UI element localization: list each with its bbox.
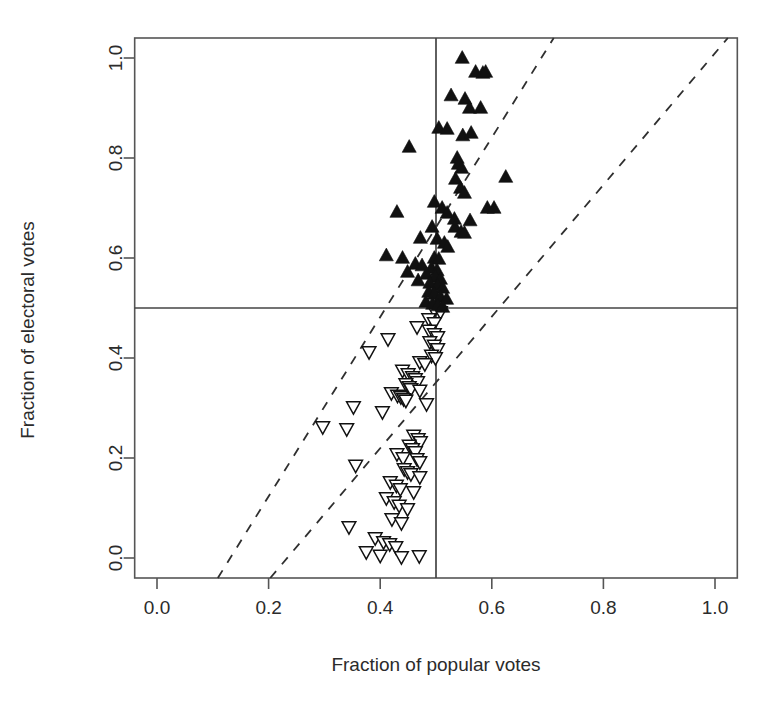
data-points-losers — [316, 305, 447, 564]
data-point-winner — [464, 126, 478, 139]
data-point-loser — [395, 552, 409, 564]
data-point-loser — [420, 399, 434, 411]
scatter-plot-figure: 0.00.20.40.60.81.00.00.20.40.60.81.0 Fra… — [0, 0, 779, 709]
x-tick-label: 0.4 — [367, 597, 394, 618]
data-point-loser — [395, 518, 409, 530]
y-tick-label: 0.8 — [105, 145, 126, 171]
data-point-loser — [381, 334, 395, 346]
data-point-loser — [376, 407, 390, 419]
data-point-winner — [499, 170, 513, 183]
data-point-loser — [410, 322, 424, 334]
data-point-loser — [342, 522, 356, 534]
data-point-winner — [455, 51, 469, 64]
data-point-loser — [359, 547, 373, 559]
y-tick-label: 0.2 — [105, 445, 126, 471]
data-point-loser — [413, 472, 427, 484]
election-scatter-chart: 0.00.20.40.60.81.00.00.20.40.60.81.0 Fra… — [0, 0, 779, 709]
data-point-loser — [401, 504, 415, 516]
x-axis-title: Fraction of popular votes — [331, 654, 540, 675]
data-point-winner — [395, 251, 409, 264]
x-tick-label: 0.6 — [479, 597, 505, 618]
data-point-loser — [412, 551, 426, 563]
data-point-loser — [316, 422, 330, 434]
data-point-winner — [390, 205, 404, 218]
x-tick-label: 0.8 — [590, 597, 616, 618]
data-point-loser — [407, 487, 421, 499]
data-point-loser — [362, 347, 376, 359]
x-tick-label: 1.0 — [702, 597, 728, 618]
data-point-winner — [379, 248, 393, 261]
data-point-loser — [340, 424, 354, 436]
data-point-winner — [463, 213, 477, 226]
data-point-winner — [444, 88, 458, 101]
data-points-winners — [379, 51, 512, 313]
y-tick-label: 1.0 — [105, 45, 126, 71]
y-tick-label: 0.4 — [105, 344, 126, 371]
x-tick-label: 0.0 — [144, 597, 170, 618]
data-point-loser — [347, 402, 361, 414]
y-axis-title: Fraction of electoral votes — [17, 221, 38, 439]
y-tick-label: 0.6 — [105, 245, 126, 271]
data-point-loser — [349, 460, 363, 472]
y-tick-label: 0.0 — [105, 545, 126, 571]
data-point-winner — [402, 140, 416, 153]
data-point-loser — [373, 550, 387, 562]
x-tick-label: 0.2 — [255, 597, 281, 618]
data-point-winner — [474, 101, 488, 114]
